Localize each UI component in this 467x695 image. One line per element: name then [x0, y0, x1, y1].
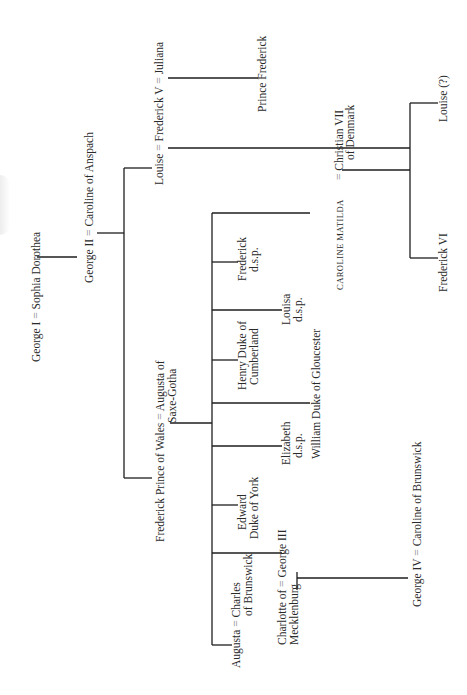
node-william-duke-of-gloucester: William Duke of Gloucester — [310, 329, 322, 459]
node-frederick-dsp-line1: Frederick — [236, 237, 248, 281]
node-louise-questionable: Louise (?) — [437, 75, 450, 122]
node-edward-line2: Duke of York — [248, 476, 260, 539]
node-prince-frederick: Prince Frederick — [256, 35, 268, 112]
node-charles-of-brunswick-line2: of Brunswick — [242, 553, 254, 616]
node-louisa-line1: Louisa — [280, 294, 292, 325]
node-mecklenburg-line2: Mecklenburg — [288, 584, 301, 645]
node-louise-frederick-v-juliana: Louise = Frederick V = Juliana — [153, 42, 165, 185]
node-louisa-line2: d.s.p. — [292, 297, 305, 322]
node-elizabeth-line2: d.s.p. — [292, 433, 305, 458]
node-henry-line2: Cumberland — [248, 328, 260, 385]
node-frederick-dsp-line2: d.s.p. — [248, 247, 261, 272]
node-frederick-vi: Frederick VI — [437, 233, 449, 292]
node-edward-line1: Edward — [236, 494, 248, 530]
node-elizabeth-line1: Elizabeth — [280, 421, 292, 465]
labels: George I = Sophia Dorothea George II = C… — [30, 35, 450, 668]
node-augusta-saxe-gotha-line2: Saxe-Gotha — [166, 369, 178, 423]
node-christian-vii-line2: of Denmark — [344, 105, 356, 160]
family-tree-diagram: George I = Sophia Dorothea George II = C… — [0, 0, 467, 695]
node-george-ii-couple: George II = Caroline of Anspach — [83, 132, 96, 283]
node-george-i-couple: George I = Sophia Dorothea — [30, 232, 43, 362]
node-caroline-matilda: CAROLINE MATILDA — [335, 199, 345, 290]
node-george-iv-couple: George IV = Caroline of Brunswick — [411, 441, 424, 607]
